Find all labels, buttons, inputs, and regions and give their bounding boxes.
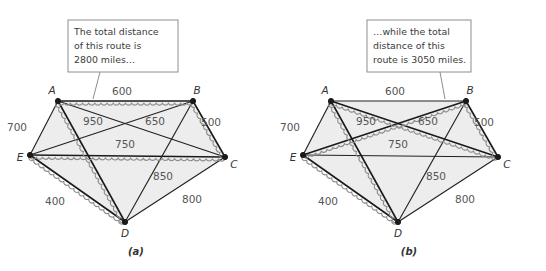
callout-text-line: of this route is	[74, 40, 141, 51]
node-C	[222, 154, 227, 159]
edge-weight-E-C: 750	[388, 138, 408, 150]
node-label-D: D	[394, 227, 402, 239]
node-A	[55, 98, 60, 103]
panel-b-svg: 600500750400950700650850800 ABCDE …while…	[273, 0, 546, 271]
node-label-D: D	[121, 227, 129, 239]
edge-weight-B-D: 850	[153, 170, 173, 182]
edge-weight-B-D: 850	[426, 170, 446, 182]
edge-weight-E-C: 750	[115, 138, 135, 150]
node-D	[122, 219, 127, 224]
callout-leader-line	[93, 72, 100, 99]
edge-weight-C-D: 800	[182, 193, 202, 205]
edge-weight-A-D: 950	[356, 115, 376, 127]
edge-weight-E-B: 650	[418, 115, 438, 127]
node-D	[395, 219, 400, 224]
panel-a-subcaption: (a)	[128, 246, 144, 257]
callout-text-line: 2800 miles…	[74, 54, 135, 65]
callout-text-line: distance of this	[373, 40, 445, 51]
edge-weight-A-E: 700	[7, 121, 27, 133]
callout-text-line: …while the total	[373, 26, 450, 37]
node-label-C: C	[503, 158, 511, 170]
callout-text-line: route is 3050 miles.	[373, 54, 466, 65]
panel-b: 600500750400950700650850800 ABCDE …while…	[273, 0, 546, 271]
edge-weight-B-C: 500	[474, 116, 494, 128]
node-label-C: C	[230, 158, 238, 170]
edge-weight-A-B: 600	[112, 85, 132, 97]
node-B	[190, 98, 195, 103]
node-E	[27, 152, 32, 157]
node-label-B: B	[193, 84, 200, 96]
edge-weight-A-D: 950	[83, 115, 103, 127]
node-label-A: A	[47, 84, 55, 96]
edge-weight-A-B: 600	[385, 85, 405, 97]
node-B	[463, 98, 468, 103]
node-label-B: B	[466, 84, 473, 96]
node-label-E: E	[290, 151, 297, 163]
node-label-A: A	[320, 84, 328, 96]
edge-weight-A-E: 700	[280, 121, 300, 133]
panel-b-subcaption: (b)	[401, 246, 417, 257]
panel-b-callout: …while the totaldistance of thisroute is…	[367, 20, 471, 99]
node-E	[300, 152, 305, 157]
node-A	[328, 98, 333, 103]
edge-weight-C-D: 800	[455, 193, 475, 205]
panel-a: 600500750400950700650850800 ABCDE The to…	[0, 0, 273, 271]
edge-weight-E-D: 400	[318, 195, 338, 207]
callout-leader-line	[440, 72, 445, 99]
panel-a-svg: 600500750400950700650850800 ABCDE The to…	[0, 0, 273, 271]
node-label-E: E	[17, 151, 24, 163]
figure-root: 600500750400950700650850800 ABCDE The to…	[0, 0, 546, 271]
node-C	[495, 154, 500, 159]
callout-text-line: The total distance	[73, 26, 159, 37]
edge-weight-E-B: 650	[145, 115, 165, 127]
edge-weight-E-D: 400	[45, 195, 65, 207]
edge-weight-B-C: 500	[201, 116, 221, 128]
